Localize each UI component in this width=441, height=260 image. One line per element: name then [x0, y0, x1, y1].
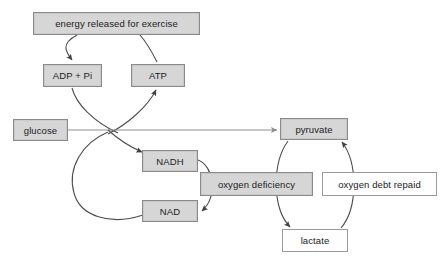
node-lactate[interactable]: lactate [282, 229, 348, 252]
node-label: ADP + Pi [53, 70, 92, 81]
node-label: NAD [160, 206, 180, 217]
node-label: oxygen debt repaid [338, 179, 421, 190]
node-label: glucose [24, 125, 57, 136]
edge-adp-to-crossing [72, 88, 118, 133]
node-label: energy released for exercise [55, 18, 178, 29]
node-adp-pi[interactable]: ADP + Pi [43, 64, 102, 87]
node-label: pyruvate [295, 124, 332, 135]
edge-atp-to-energy [140, 35, 157, 62]
node-nad[interactable]: NAD [142, 200, 198, 222]
node-label: oxygen deficiency [218, 179, 295, 190]
edge-energy-to-adp [66, 35, 77, 60]
node-label: lactate [301, 235, 330, 246]
node-glucose[interactable]: glucose [13, 119, 68, 141]
node-oxygen-debt-repaid[interactable]: oxygen debt repaid [322, 172, 437, 196]
node-nadh[interactable]: NADH [142, 150, 198, 172]
node-oxygen-deficiency[interactable]: oxygen deficiency [200, 172, 313, 196]
edge-crossing-to-nadh [108, 130, 142, 152]
edge-crossing-to-atp [108, 90, 156, 134]
node-label: ATP [149, 70, 167, 81]
edge-nad-loop-to-crossing [72, 132, 143, 219]
diagram-canvas: energy released for exercise ADP + Pi AT… [0, 0, 441, 260]
node-energy-released-for-exercise[interactable]: energy released for exercise [33, 12, 200, 35]
node-label: NADH [156, 156, 183, 167]
node-pyruvate[interactable]: pyruvate [280, 118, 348, 140]
node-atp[interactable]: ATP [131, 64, 185, 87]
